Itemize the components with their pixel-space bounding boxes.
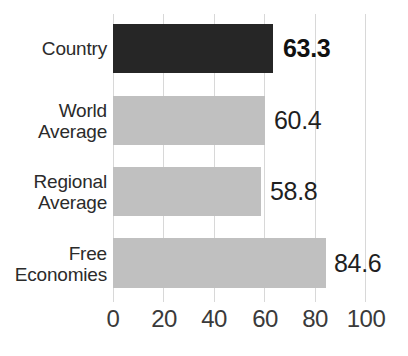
- bar-regional-average: [113, 167, 261, 216]
- category-label-free-economies: Free Economies: [0, 243, 107, 285]
- category-axis: Country World Average Regional Average F…: [0, 0, 107, 356]
- bar-country: [113, 24, 273, 73]
- category-label-world-average-line-2: Average: [0, 121, 107, 142]
- bar-world-average: [113, 96, 265, 145]
- xtick-40: 40: [201, 306, 227, 332]
- xtick-80: 80: [302, 306, 328, 332]
- value-label-regional-average: 58.8: [270, 179, 317, 204]
- category-label-country: Country: [0, 38, 107, 59]
- xtick-100: 100: [347, 306, 386, 332]
- bar-free-economies: [113, 238, 326, 288]
- category-label-regional-average: Regional Average: [0, 171, 107, 213]
- category-label-regional-average-line-2: Average: [0, 192, 107, 213]
- category-label-free-economies-line-1: Free: [0, 243, 107, 264]
- xtick-20: 20: [151, 306, 177, 332]
- xtick-0: 0: [107, 306, 120, 332]
- category-label-world-average-line-1: World: [0, 100, 107, 121]
- xtick-60: 60: [252, 306, 278, 332]
- bar-chart: Country World Average Regional Average F…: [0, 0, 408, 356]
- category-label-regional-average-line-1: Regional: [0, 171, 107, 192]
- category-label-world-average: World Average: [0, 100, 107, 142]
- value-label-world-average: 60.4: [274, 108, 321, 133]
- value-label-free-economies: 84.6: [334, 251, 381, 276]
- category-label-free-economies-line-2: Economies: [0, 264, 107, 285]
- value-label-country: 63.3: [283, 36, 330, 61]
- category-label-country-line-1: Country: [0, 38, 107, 59]
